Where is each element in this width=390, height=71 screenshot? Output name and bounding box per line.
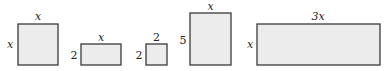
x-squared-tile: x x [7,10,58,65]
x-by-5-tile: x 5 [180,0,232,65]
width-label: 3x [311,10,325,23]
width-label: x [35,10,42,23]
height-label: x [7,38,14,51]
width-label: x [207,0,214,13]
tile-rect [18,24,58,65]
tile-rect [190,13,231,65]
tile-rect [81,44,121,65]
x-by-2-tile: x 2 [71,31,122,65]
tile-rect [146,44,167,65]
width-label: x [98,31,105,44]
3x-by-x-tile: 3x x [247,10,380,65]
algebra-tiles-diagram: x x x 2 2 2 x 5 3x x [0,0,390,71]
width-label: 2 [153,31,160,44]
height-label: 2 [71,49,78,62]
height-label: x [247,38,254,51]
height-label: 2 [136,49,143,62]
height-label: 5 [180,34,187,47]
2-by-2-tile: 2 2 [136,31,168,65]
tile-rect [257,24,380,65]
